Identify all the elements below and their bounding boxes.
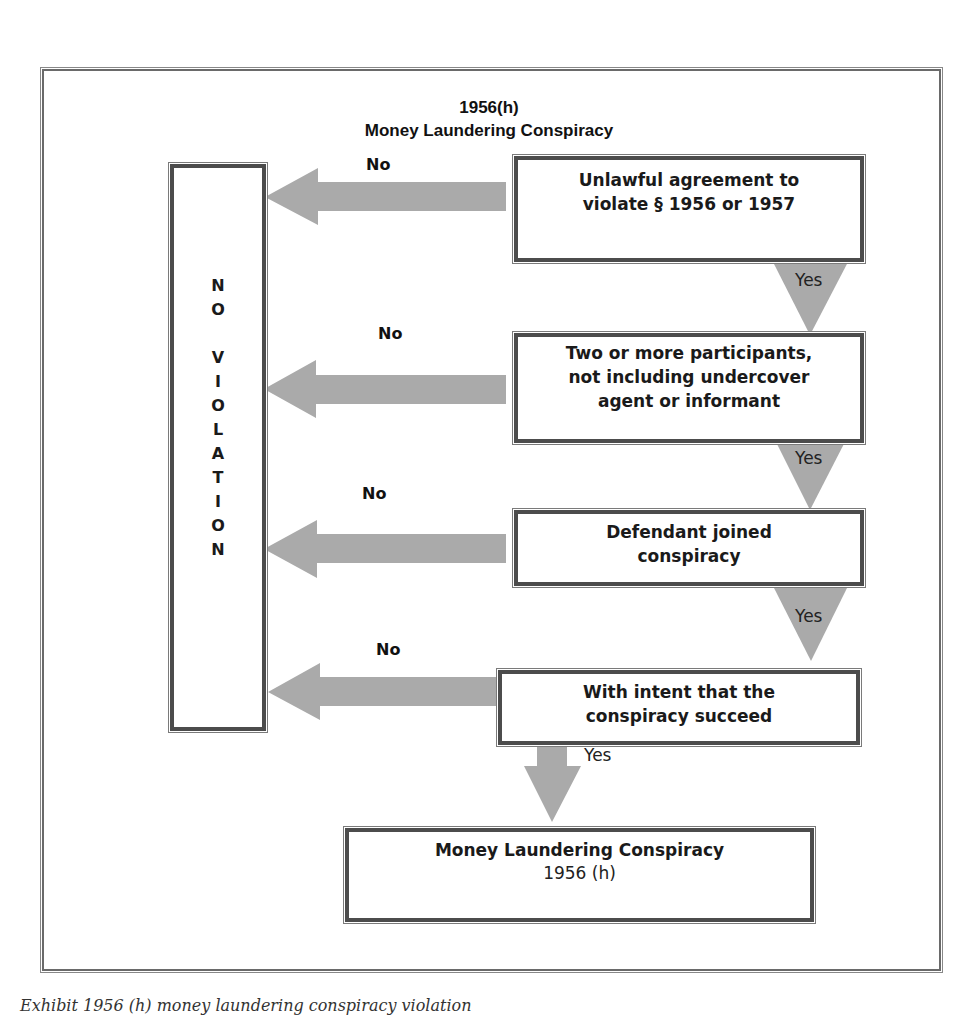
yes-label-2: Yes — [795, 448, 822, 468]
no-label-4: No — [376, 640, 400, 659]
no-arrow-2 — [264, 360, 506, 418]
yes-arrow-4 — [524, 745, 581, 822]
figure-caption: Exhibit 1956 (h) money laundering conspi… — [20, 996, 471, 1015]
no-arrow-4 — [268, 663, 496, 720]
no-violation-box: N O V I O L A T I O N — [168, 162, 268, 733]
result-subtitle: 1956 (h) — [543, 862, 616, 884]
yes-label-3: Yes — [795, 606, 822, 626]
step-box-unlawful-agreement: Unlawful agreement to violate § 1956 or … — [512, 154, 866, 264]
no-arrow-1 — [265, 168, 506, 225]
no-label-3: No — [362, 484, 386, 503]
no-arrow-3 — [264, 520, 506, 578]
yes-label-4: Yes — [584, 745, 611, 765]
no-label-2: No — [378, 324, 402, 343]
yes-label-1: Yes — [795, 270, 822, 290]
result-title: Money Laundering Conspiracy — [435, 838, 724, 862]
result-box: Money Laundering Conspiracy 1956 (h) — [343, 826, 816, 924]
step-box-intent: With intent that the conspiracy succeed — [496, 668, 862, 747]
no-label-1: No — [366, 155, 390, 174]
step-box-defendant-joined: Defendant joined conspiracy — [512, 508, 866, 588]
step-box-participants: Two or more participants, not including … — [512, 331, 866, 445]
no-violation-label: N O V I O L A T I O N — [211, 274, 225, 562]
